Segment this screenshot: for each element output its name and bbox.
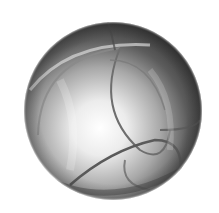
sphere-rim-shade bbox=[24, 22, 202, 200]
image-stage: grayscale sphere with curved arc segment… bbox=[0, 0, 219, 213]
sphere-graphic bbox=[0, 0, 219, 213]
